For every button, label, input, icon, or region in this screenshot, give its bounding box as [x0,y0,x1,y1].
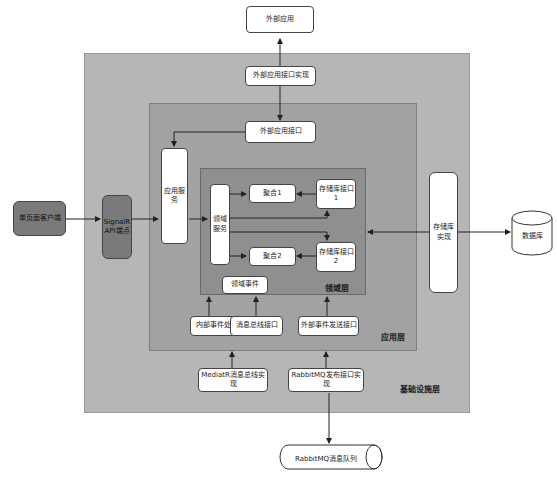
repo-interface1-node[interactable]: 存储库接口1 [316,179,356,209]
rabbitmq-publish-impl-node[interactable]: RabbitMQ发布接口实现 [288,368,364,392]
message-bus-interface-node[interactable]: 消息总线接口 [230,316,283,336]
domain-event-node[interactable]: 领域事件 [222,276,268,294]
app-service-node[interactable]: 应用服务 [161,148,188,244]
repo-interface2-node[interactable]: 存储库接口2 [316,242,356,272]
mediatr-bus-impl-node[interactable]: MediatR消息总线实现 [198,368,268,392]
external-event-send-interface-node[interactable]: 外部事件发送接口 [298,316,359,336]
aggregate1-node[interactable]: 聚合1 [249,184,296,203]
external-app-node[interactable]: 外部应用 [246,6,314,33]
repo-impl-node[interactable]: 存储库实现 [429,172,458,293]
database-node[interactable]: 数据库 [510,230,554,240]
rabbitmq-queue-node[interactable]: RabbitMQ消息队列 [278,453,374,463]
external-app-interface-impl-node[interactable]: 外部应用接口实现 [245,66,316,86]
external-app-interface-node[interactable]: 外部应用接口 [245,121,316,143]
signalr-endpoint-node[interactable]: SignalR API端点 [102,195,132,259]
aggregate2-node[interactable]: 聚合2 [249,247,296,266]
domain-service-node[interactable]: 领域服务 [210,184,230,265]
spa-client-node[interactable]: 单页面客户端 [13,201,66,236]
